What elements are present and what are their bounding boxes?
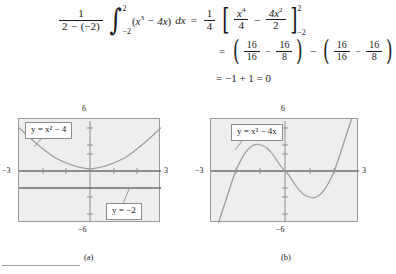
equals-sign-2: =	[219, 45, 225, 57]
minus-sign: −	[254, 14, 260, 26]
bracket-limits: 2 −2	[297, 7, 306, 34]
paren-open-2: (	[323, 40, 330, 62]
worked-equation: 1 2−(−2) ∫ 2 −2 (x3−4x) dx = 1 4 [ x4	[0, 0, 383, 96]
fraction-16-over-16-a: 16 16	[244, 40, 260, 62]
fraction-16-over-8-a: 16 8	[276, 40, 292, 62]
fraction-numerator: 1	[75, 8, 87, 20]
figure-a-callout-parabola: y = x² − 4	[25, 122, 72, 139]
antiderivative-bracket-group: [ x4 4 − 4x2 2 ] 2 −2	[220, 7, 305, 34]
integral-lower-limit: −2	[122, 27, 131, 36]
fraction-16-over-16-b: 16 16	[334, 40, 350, 62]
bracket-close: ]	[290, 7, 297, 34]
bracket-upper-limit: 2	[297, 4, 306, 13]
second-parenthesized-group: ( 16 16 − 16 8 )	[321, 40, 395, 62]
term-1-fraction: x4 4	[234, 7, 248, 34]
quarter-numerator: 1	[204, 8, 216, 20]
figure-b-callout-cubic: y = x³ − 4x	[231, 124, 283, 141]
figure-a-callout-constant: y = −2	[106, 203, 142, 220]
one-quarter-fraction: 1 4	[204, 8, 216, 32]
equals-sign-1: =	[191, 14, 197, 26]
equation-line-2: = ( 16 16 − 16 8 ) − ( 16 16 −	[214, 40, 396, 62]
integral-limits: 2 −2	[122, 6, 131, 34]
paren-open-1: (	[233, 40, 240, 62]
figure-b: 6 −6 −3 3	[196, 100, 378, 274]
paren-close-1: )	[296, 40, 303, 62]
figure-a-leader-parabola	[34, 138, 42, 147]
fraction-16-over-8-b: 16 8	[366, 40, 382, 62]
term-2-numerator: 4x2	[266, 7, 286, 19]
differential: dx	[175, 14, 185, 26]
figure-b-leader-lines	[196, 100, 378, 274]
term-1-numerator: x4	[234, 7, 248, 19]
integral-sign: ∫	[109, 9, 122, 31]
definite-integral: ∫ 2 −2	[108, 6, 131, 34]
minus-sign: −	[355, 46, 361, 57]
figure-a-leader-constant	[123, 189, 129, 204]
minus-sign: −	[265, 46, 271, 57]
minus-sign-between-groups: −	[310, 45, 316, 57]
fraction-denominator: 2−(−2)	[59, 21, 103, 33]
bracket-open: [	[223, 7, 230, 34]
figure-a: 6 −6 −3 3	[6, 100, 184, 274]
equation-line-1: 1 2−(−2) ∫ 2 −2 (x3−4x) dx = 1 4 [ x4	[57, 6, 306, 34]
average-value-fraction: 1 2−(−2)	[59, 8, 103, 32]
paren-close-2: )	[386, 40, 393, 62]
equation-line-3: = −1 + 1 = 0	[216, 72, 271, 84]
term-1-denominator: 4	[236, 20, 248, 32]
integral-upper-limit: 2	[122, 4, 131, 13]
integrand: (x3−4x)	[132, 14, 171, 27]
term-2-denominator: 2	[270, 20, 282, 32]
first-parenthesized-group: ( 16 16 − 16 8 )	[231, 40, 305, 62]
quarter-denominator: 4	[204, 21, 216, 33]
term-2-fraction: 4x2 2	[266, 7, 286, 34]
figure-b-leader-cubic	[235, 141, 242, 150]
